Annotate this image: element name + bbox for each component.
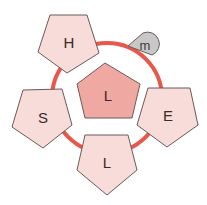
center-label: L [104, 87, 112, 104]
node-s: S [12, 89, 72, 148]
node-label-h: H [64, 34, 75, 51]
node-label-e: E [163, 107, 173, 124]
node-label-bottom-l: L [103, 154, 111, 171]
node-label-s: S [38, 109, 48, 126]
node-h: H [38, 15, 99, 73]
marker-label: m [140, 38, 151, 53]
diagram-canvas: L H S L E m [0, 0, 207, 205]
node-bottom-l: L [77, 135, 137, 195]
